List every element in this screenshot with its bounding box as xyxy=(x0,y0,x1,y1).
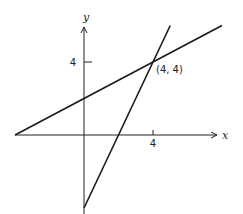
intersection-label: (4, 4) xyxy=(156,64,183,75)
x-axis-label: x xyxy=(222,129,229,142)
axes xyxy=(15,27,217,214)
labels-group: 44xy(4, 4) xyxy=(70,11,229,149)
series-line-1 xyxy=(15,26,222,136)
y-axis-label: y xyxy=(82,11,90,24)
series-line-2 xyxy=(84,26,170,209)
x-tick-label: 4 xyxy=(150,138,156,149)
intersecting-lines-plot: 44xy(4, 4) xyxy=(0,0,243,214)
y-tick-label: 4 xyxy=(70,57,76,68)
series-group xyxy=(15,26,222,209)
